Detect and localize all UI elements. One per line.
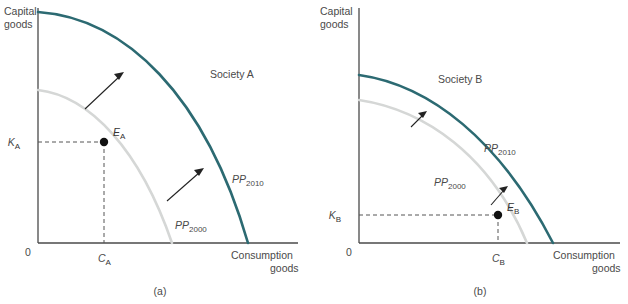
panel-a-origin-label: 0 (25, 246, 31, 258)
panel-a-caption: (a) (154, 285, 167, 297)
panel-b-curve-pp2010 (359, 75, 553, 243)
panel-b-y-tick-label: KB (329, 209, 341, 224)
panel-b-caption: (b) (474, 285, 487, 297)
panel-a-x-tick-sub: A (106, 258, 112, 267)
panel-a-arrow-2 (167, 168, 204, 201)
panel-b-y-axis-label-line1: Capital (320, 5, 353, 17)
panel-b-label-pp2010-name: PP (484, 142, 498, 154)
panel-b-x-tick-label: CB (492, 252, 505, 267)
panel-b-point-label-sub: B (514, 207, 519, 216)
panel-b-x-axis-label-line2: goods (592, 262, 621, 274)
panel-a-y-tick-sub: A (15, 142, 21, 151)
panel-b-point-label: EB (507, 201, 519, 216)
panel-a-arrow-1 (85, 72, 124, 109)
panel-a-curve-pp2000 (38, 90, 172, 243)
panel-b-point-eb (494, 211, 502, 219)
panel-b-curve-pp2000 (359, 100, 527, 243)
panel-b-y-tick-sub: B (336, 215, 341, 224)
panel-a-point-ea (100, 138, 108, 146)
panel-a-y-axis-label-line1: Capital (4, 5, 37, 17)
panel-a-label-pp2000: PP2000 (175, 219, 207, 234)
panel-b-x-tick-sub: B (500, 258, 505, 267)
panel-b: Capital goods Consumption goods Society … (320, 5, 621, 297)
panel-b-origin-label: 0 (346, 246, 352, 258)
panel-a-point-label: EA (113, 126, 126, 141)
panel-a-x-tick-label: CA (98, 252, 112, 267)
panel-a-x-axis-label-line2: goods (270, 262, 299, 274)
panel-a-label-pp2000-name: PP (175, 219, 189, 231)
panel-a-label-pp2010-name: PP (232, 173, 246, 185)
panel-b-label-pp2000-sub: 2000 (448, 182, 466, 191)
panel-b-y-axis-label-line2: goods (320, 18, 349, 30)
panel-a-society-label: Society A (210, 68, 254, 80)
panel-b-label-pp2010-sub: 2010 (498, 148, 516, 157)
panel-a-y-tick-label: KA (8, 136, 21, 151)
panel-b-label-pp2000: PP2000 (434, 176, 466, 191)
panel-a-label-pp2000-sub: 2000 (189, 225, 207, 234)
panel-a-curve-pp2010 (38, 12, 248, 243)
ppf-figure: Capital goods Consumption goods Society … (0, 0, 628, 304)
panel-b-x-axis-label-line1: Consumption (553, 249, 615, 261)
panel-b-society-label: Society B (438, 73, 482, 85)
panel-a-x-axis-label-line1: Consumption (231, 249, 293, 261)
panel-a-y-axis-label-line2: goods (4, 18, 33, 30)
panel-a-label-pp2010-sub: 2010 (246, 179, 264, 188)
panel-b-label-pp2000-name: PP (434, 176, 448, 188)
panel-a: Capital goods Consumption goods Society … (4, 5, 299, 297)
panel-b-arrow-1 (411, 111, 427, 127)
panel-a-point-label-sub: A (120, 132, 126, 141)
panel-b-label-pp2010: PP2010 (484, 142, 516, 157)
panel-a-label-pp2010: PP2010 (232, 173, 264, 188)
